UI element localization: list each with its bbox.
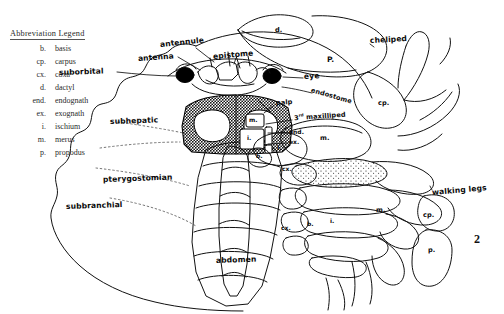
legend-row: end.endognath	[8, 95, 120, 108]
label-suborbital: suborbital	[59, 67, 104, 76]
legend-abbr: i.	[8, 121, 55, 134]
left-eye	[176, 68, 194, 83]
legend-abbr: p.	[8, 147, 55, 160]
legend-abbr: ex.	[8, 108, 55, 121]
label-abdomen: abdomen	[216, 256, 257, 265]
region-leader-lower	[110, 198, 196, 226]
legend-term: merus	[55, 134, 120, 147]
leader-suborbital	[117, 72, 176, 76]
leader-endostome	[282, 87, 312, 93]
label-subbranchial: subbranchial	[66, 201, 123, 211]
mark-exognath: ex.	[289, 139, 299, 145]
label-eye: eye	[304, 72, 320, 80]
legend-term: dactyl	[55, 82, 120, 95]
sternum-plates	[192, 142, 282, 306]
legend-table: b.basis cp.carpus cx.coxa d.dactyl end.e…	[8, 43, 120, 160]
mark-dactyl-claw: d.	[275, 27, 282, 34]
mark-carpus-cheliped: cp.	[378, 100, 389, 107]
figure-number: 2	[474, 232, 480, 247]
legend-abbr: end.	[8, 95, 55, 108]
legend-row: p.propodus	[8, 147, 120, 160]
legend-row: d.dactyl	[8, 82, 120, 95]
mark-coxa-leg: cx.	[281, 225, 291, 231]
legend-abbr: m.	[8, 134, 55, 147]
legend-title: Abbreviation Legend	[10, 29, 85, 40]
abbreviation-legend: Abbreviation Legend b.basis cp.carpus cx…	[8, 22, 120, 160]
legend-term: propodus	[55, 147, 120, 160]
mark-merus-leg: m.	[376, 207, 386, 214]
mark-propodus-leg: p.	[428, 247, 435, 254]
legend-abbr: cp.	[8, 56, 55, 69]
label-palp: palp	[276, 99, 293, 107]
leg2-propodus	[412, 230, 452, 287]
leader-eye	[283, 77, 303, 78]
legend-term: basis	[55, 43, 120, 56]
abdomen-flap	[219, 146, 250, 296]
mark-coxa-cheliped: cx.	[282, 166, 292, 172]
legend-row: ex.exognath	[8, 108, 120, 121]
legend-term: endognath	[55, 95, 120, 108]
mark-propodus-claw: P.	[327, 56, 334, 64]
walking-leg-1	[292, 159, 387, 188]
legend-abbr: d.	[8, 82, 55, 95]
mark-merus-cheliped: m.	[320, 135, 330, 142]
figure-canvas: Abbreviation Legend b.basis cp.carpus cx…	[0, 0, 504, 314]
mark-ischium-maxilliped: i.	[247, 135, 251, 141]
label-cheliped: cheliped	[370, 35, 407, 45]
mark-ischium-cheliped: i.	[277, 145, 282, 152]
mark-basis-cheliped: b.	[256, 153, 263, 159]
right-eye	[263, 69, 281, 84]
mark-endognath: end.	[289, 129, 304, 135]
legend-row: m.merus	[8, 134, 120, 147]
mark-carpus-leg: cp.	[423, 212, 434, 219]
mark-merus-maxilliped: m.	[249, 117, 258, 123]
legend-abbr: cx.	[8, 69, 55, 82]
legend-row: b.basis	[8, 43, 120, 56]
leader-antennule	[196, 48, 214, 62]
legend-row: i.ischium	[8, 121, 120, 134]
mark-basis-leg: b.	[307, 221, 314, 227]
label-subhepatic: subhepatic	[110, 116, 158, 125]
legend-abbr: b.	[8, 43, 55, 56]
mark-ischium-leg: i.	[330, 218, 334, 224]
